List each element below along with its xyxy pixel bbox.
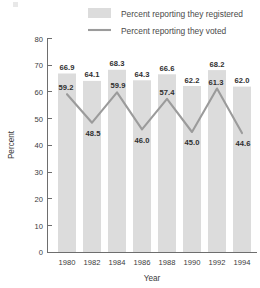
- bar-label-1994: 62.0: [235, 76, 250, 85]
- legend-swatch-registered: [88, 8, 111, 18]
- x-axis: 1980 1982 1984 1986 1988 1990 1992 1994 …: [48, 253, 258, 284]
- legend-label-voted: Percent reporting they voted: [121, 26, 227, 36]
- line-label-1980: 59.2: [59, 83, 74, 92]
- legend-entry-voted: Percent reporting they voted: [88, 26, 227, 36]
- legend-label-registered: Percent reporting they registered: [121, 9, 243, 19]
- line-label-1992: 61.3: [209, 78, 224, 87]
- bar-label-1992: 68.2: [210, 60, 225, 69]
- y-tick-label-20: 20: [35, 195, 43, 204]
- chart-legend: Percent reporting they registered Percen…: [88, 8, 243, 36]
- bar-1982: [83, 81, 101, 252]
- bar-label-1988: 66.6: [160, 64, 175, 73]
- registration-voting-bar-line-chart: Percent reporting they registered Percen…: [0, 0, 260, 288]
- x-tick-label-1984: 1984: [109, 258, 126, 267]
- bar-label-1990: 62.2: [185, 76, 200, 85]
- legend-entry-registered: Percent reporting they registered: [88, 8, 243, 19]
- scan-artifact: [13, 2, 18, 7]
- y-tick-label-40: 40: [35, 141, 43, 150]
- chart-container: Percent reporting they registered Percen…: [0, 0, 260, 288]
- y-tick-label-70: 70: [35, 61, 43, 70]
- line-label-1986: 46.0: [135, 136, 150, 145]
- bar-1988: [158, 74, 176, 252]
- line-label-1994: 44.6: [236, 139, 251, 148]
- x-tick-label-1994: 1994: [234, 258, 251, 267]
- x-tick-label-1992: 1992: [209, 258, 226, 267]
- bar-1994: [233, 87, 251, 253]
- bar-label-1982: 64.1: [85, 70, 101, 79]
- y-tick-label-30: 30: [35, 168, 43, 177]
- x-axis-title: Year: [144, 274, 161, 283]
- x-tick-label-1988: 1988: [159, 258, 176, 267]
- y-tick-label-10: 10: [35, 222, 43, 231]
- bar-label-1984: 68.3: [110, 59, 125, 68]
- y-axis: 80 70 60 50 40 30 20 10 0 Percent: [7, 35, 52, 258]
- bar-label-1986: 64.3: [135, 70, 150, 79]
- line-label-1982: 48.5: [86, 129, 102, 138]
- x-tick-label-1982: 1982: [84, 258, 101, 267]
- line-label-1984: 59.9: [111, 81, 126, 90]
- y-axis-title: Percent: [7, 130, 16, 159]
- bar-1986: [133, 80, 151, 252]
- y-tick-label-50: 50: [35, 115, 43, 124]
- x-tick-label-1986: 1986: [134, 258, 151, 267]
- line-label-1990: 45.0: [185, 138, 200, 147]
- y-tick-label-80: 80: [35, 35, 43, 44]
- x-tick-label-1980: 1980: [59, 258, 76, 267]
- bar-label-1980: 66.9: [60, 63, 75, 72]
- line-label-1988: 57.4: [160, 88, 176, 97]
- bar-1984: [108, 70, 126, 252]
- y-tick-label-0: 0: [39, 248, 43, 257]
- bar-1990: [183, 86, 201, 252]
- x-tick-label-1990: 1990: [184, 258, 201, 267]
- y-tick-label-60: 60: [35, 88, 43, 97]
